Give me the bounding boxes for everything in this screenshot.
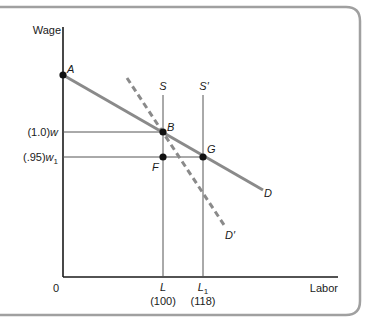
x-tick-l: L [160, 281, 166, 293]
x-axis-label: Labor [310, 282, 338, 294]
x-tick-l-value: (100) [150, 295, 176, 307]
label-a: A [66, 63, 74, 75]
label-g: G [207, 143, 216, 155]
diagram-canvas: Wage Labor 0 (1.0)w (.95)w1 L (100) L1 (… [0, 0, 373, 323]
label-d-prime: D′ [225, 229, 236, 241]
label-f: F [152, 161, 160, 173]
point-a [59, 71, 66, 78]
point-b [159, 128, 166, 135]
label-d: D [264, 187, 272, 199]
label-s: S [159, 80, 167, 92]
point-g [199, 153, 206, 160]
label-b: B [167, 121, 174, 133]
x-tick-l1: L1 [198, 281, 209, 296]
x-tick-l1-value: (118) [191, 295, 216, 307]
y-tick-wage: (1.0)w [27, 126, 59, 138]
wage-labor-diagram: Wage Labor 0 (1.0)w (.95)w1 L (100) L1 (… [0, 0, 373, 323]
point-f [159, 153, 166, 160]
y-axis-label: Wage [33, 24, 61, 36]
origin-label: 0 [53, 282, 59, 294]
label-s-prime: S′ [199, 80, 209, 92]
y-tick-wage1: (.95)w1 [23, 151, 59, 166]
